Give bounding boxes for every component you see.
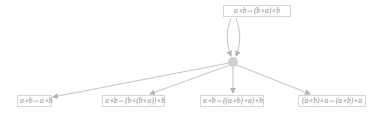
edge-hub-to-node-1 [53,63,229,97]
bottom-node-1[interactable]: a∘b⇔a∘b [17,95,52,107]
bottom-node-3[interactable]: a∘b⇔((a∘b)∘a)∘b [200,95,264,107]
bottom-node-2[interactable]: a∘b⇔(b∘(b∘a))∘b [102,95,165,107]
hub-node[interactable] [228,57,238,67]
bottom-node-4[interactable]: (a∘b)∘a⇔(a∘b)∘a [298,95,366,107]
top-node[interactable]: a∘b⇔(b∘a)∘b [223,5,291,17]
edge-hub-to-node-4 [237,65,310,94]
edge-hub-to-node-2 [150,65,230,94]
edge-top-to-hub-1 [227,18,231,56]
edge-top-to-hub-2 [236,18,240,56]
